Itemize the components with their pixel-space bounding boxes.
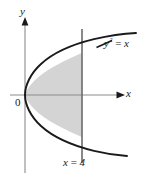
curve-equation-label: y2 = x [104, 37, 129, 49]
x-axis-label: x [126, 88, 131, 99]
vertical-line-label-rhs: 4 [80, 156, 86, 168]
x-axis-arrowhead [117, 92, 126, 99]
vertical-line-label: x = 4 [63, 157, 85, 168]
origin-label: 0 [15, 97, 21, 108]
figure-canvas [0, 0, 146, 179]
y-axis-label: y [20, 6, 25, 17]
curve-equation-equals: = [112, 37, 124, 49]
curve-equation-rhs: x [124, 37, 129, 49]
vertical-line-label-equals: = [68, 156, 80, 168]
y-axis-arrowhead [22, 17, 29, 26]
parabola-region-figure: y x 0 y2 = x x = 4 [0, 0, 146, 179]
